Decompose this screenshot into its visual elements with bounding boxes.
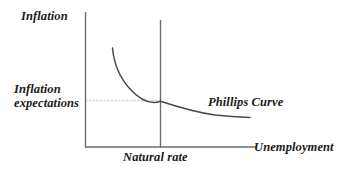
phillips-curve-figure: Inflation Inflationexpectations Phillips…: [0, 0, 347, 172]
inflation-expectations-label-line1: Inflation: [14, 82, 61, 96]
inflation-expectations-label-line2: expectations: [14, 96, 84, 110]
phillips-curve-label: Phillips Curve: [208, 95, 283, 109]
natural-rate-label: Natural rate: [123, 150, 188, 164]
y-axis-label: Inflation: [21, 9, 68, 23]
x-axis-label: Unemployment: [254, 140, 334, 154]
inflation-expectations-label: Inflationexpectations: [14, 82, 84, 110]
